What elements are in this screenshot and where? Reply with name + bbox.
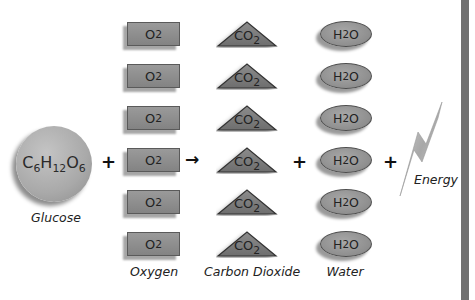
carbon-dioxide-molecule: CO2 xyxy=(216,188,278,214)
carbon-dioxide-molecule: CO2 xyxy=(216,62,278,88)
glucose-molecule: C6H12O6 xyxy=(16,126,92,202)
plus-sign: + xyxy=(292,151,307,172)
plus-sign: + xyxy=(383,151,398,172)
glucose-label: Glucose xyxy=(20,210,92,225)
water-molecule: H2O xyxy=(320,189,372,215)
carbon-dioxide-label: Carbon Dioxide xyxy=(204,264,294,279)
plus-sign: + xyxy=(101,151,116,172)
glucose-formula: C6H12O6 xyxy=(22,153,85,175)
carbon-dioxide-molecule: CO2 xyxy=(216,146,278,172)
side-bar xyxy=(461,0,469,300)
water-molecule: H2O xyxy=(320,231,372,257)
water-molecule: H2O xyxy=(320,21,372,47)
oxygen-molecule: O2 xyxy=(127,232,180,256)
oxygen-molecule: O2 xyxy=(127,106,180,130)
oxygen-molecule: O2 xyxy=(127,148,180,172)
carbon-dioxide-molecule: CO2 xyxy=(216,104,278,130)
water-label: Water xyxy=(315,264,375,279)
carbon-dioxide-molecule: CO2 xyxy=(216,20,278,46)
oxygen-label: Oxygen xyxy=(124,264,184,279)
oxygen-molecule: O2 xyxy=(127,22,180,46)
oxygen-molecule: O2 xyxy=(127,190,180,214)
oxygen-molecule: O2 xyxy=(127,64,180,88)
carbon-dioxide-molecule: CO2 xyxy=(216,230,278,256)
energy-label: Energy xyxy=(414,172,460,187)
water-molecule: H2O xyxy=(320,63,372,89)
water-molecule: H2O xyxy=(320,147,372,173)
water-molecule: H2O xyxy=(320,105,372,131)
arrow-icon: → xyxy=(185,149,199,169)
